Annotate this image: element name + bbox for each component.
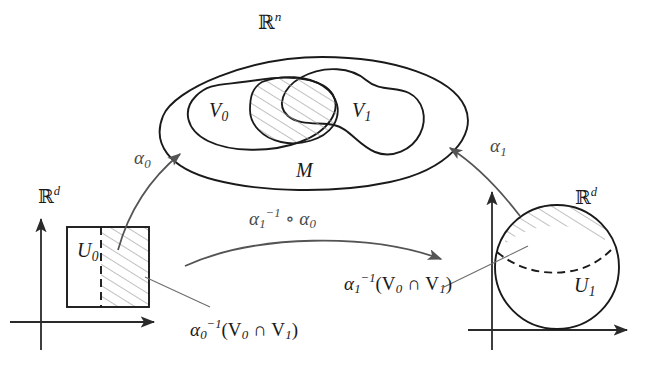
neighborhood-v1-label: V1 bbox=[352, 100, 371, 123]
diagram-canvas bbox=[0, 0, 645, 367]
left-chart-space-label: ℝd bbox=[38, 185, 60, 206]
left-chart-hatch bbox=[98, 224, 154, 310]
right-preimage-leader bbox=[444, 246, 528, 287]
right-preimage-label: α1−1(V0 ∩ V1) bbox=[344, 272, 452, 296]
right-chart-space-label: ℝd bbox=[575, 186, 597, 207]
alpha-1-label: α1 bbox=[490, 136, 507, 159]
neighborhood-v0-label: V0 bbox=[209, 100, 228, 123]
domain-u1-divider bbox=[497, 250, 611, 273]
v0-v1-intersection-hatch bbox=[240, 60, 360, 170]
transition-map-label: α1−1 ∘ α0 bbox=[249, 207, 316, 231]
manifold-label: M bbox=[296, 160, 313, 180]
domain-u1-label: U1 bbox=[574, 275, 596, 298]
manifold-transition-figure: ℝn V0 V1 M α0 α1 α1−1 ∘ α0 ℝd U0 α0−1(V0… bbox=[0, 0, 645, 367]
transition-map-arrow bbox=[185, 241, 441, 266]
alpha-0-label: α0 bbox=[134, 148, 151, 171]
alpha-1-arrow bbox=[450, 148, 520, 216]
domain-u0-label: U0 bbox=[77, 240, 99, 263]
left-preimage-leader bbox=[145, 277, 210, 307]
ambient-space-label: ℝn bbox=[258, 10, 281, 32]
left-preimage-label: α0−1(V0 ∩ V1) bbox=[190, 318, 298, 342]
